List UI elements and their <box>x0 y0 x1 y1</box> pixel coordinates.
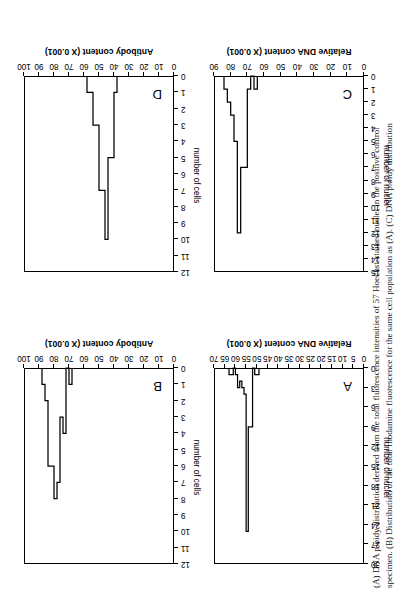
histogram-outline <box>87 76 117 239</box>
histogram-d <box>0 0 412 594</box>
figure-plate-rotator: (A) DNA ploidy distribution derived from… <box>0 0 412 594</box>
figure-plate: (A) DNA ploidy distribution derived from… <box>0 0 412 594</box>
panel-d: 01020304050607080901000123456789101112An… <box>0 0 412 594</box>
